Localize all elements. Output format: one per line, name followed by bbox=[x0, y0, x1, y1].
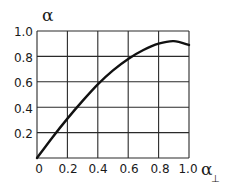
y-tick-0.6: 0.6 bbox=[14, 76, 33, 90]
chart: 0.2 0.4 0.6 0.8 1.0 0 0.2 0.4 0.6 0.8 1.… bbox=[0, 0, 227, 187]
x-tick-1.0: 1.0 bbox=[178, 162, 197, 176]
x-axis-label-subscript: ⊥ bbox=[211, 173, 220, 184]
y-tick-0.8: 0.8 bbox=[14, 51, 33, 65]
x-tick-0.2: 0.2 bbox=[58, 162, 77, 176]
x-tick-0.8: 0.8 bbox=[150, 162, 169, 176]
x-tick-0.4: 0.4 bbox=[88, 162, 107, 176]
y-tick-0.2: 0.2 bbox=[14, 127, 33, 141]
x-tick-0.6: 0.6 bbox=[119, 162, 138, 176]
grid bbox=[37, 31, 189, 158]
y-tick-1.0: 1.0 bbox=[14, 25, 33, 39]
y-axis-label: α bbox=[42, 5, 54, 25]
x-tick-0: 0 bbox=[35, 162, 43, 176]
data-curve bbox=[37, 41, 189, 158]
y-tick-labels: 0.2 0.4 0.6 0.8 1.0 bbox=[14, 25, 33, 141]
x-tick-labels: 0 0.2 0.4 0.6 0.8 1.0 bbox=[35, 162, 197, 176]
y-tick-0.4: 0.4 bbox=[14, 102, 33, 116]
